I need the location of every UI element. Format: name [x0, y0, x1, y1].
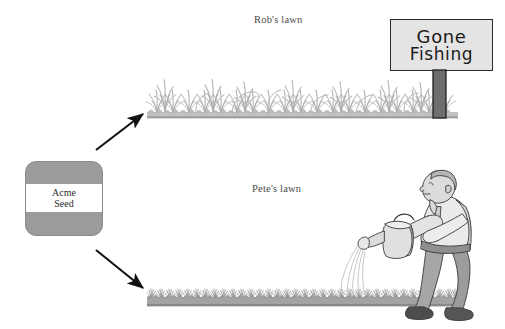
robs-lawn-grass	[146, 79, 458, 118]
petes-lawn-grass	[147, 289, 461, 306]
gone-fishing-sign-post	[433, 70, 446, 118]
illustration-canvas: Acme Seed Rob's lawn Pete's lawn Gone Fi…	[0, 0, 505, 329]
arrow-to-robs-lawn	[96, 114, 143, 150]
arrow-to-petes-lawn	[96, 250, 143, 288]
